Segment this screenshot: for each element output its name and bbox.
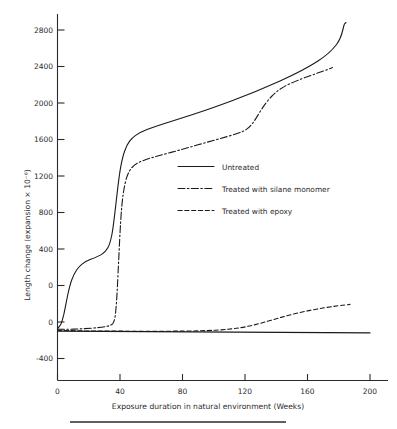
x-tick-label: 160 [300,387,315,396]
legend-label-epoxy: Treated with epoxy [221,207,293,216]
y-tick-label: -400 [36,354,53,363]
y-tick-label: 2800 [34,26,53,35]
y-tick-label: 400 [39,245,54,254]
y-tick-label: 0 [48,318,53,327]
legend-label-silane-monomer: Treated with silane monomer [221,185,331,194]
chart-figure: 2800 2400 2000 1600 1200 800 400 0 0 -40… [0,0,397,429]
y-axis-title: Length change (expansion × 10⁻⁶) [23,169,32,301]
x-axis-title: Exposure duration in natural environment… [112,402,304,411]
series-silane-monomer [58,68,333,330]
y-tick-label: 1200 [34,172,53,181]
x-tick-label: 200 [363,387,378,396]
series-untreated [58,23,347,329]
x-tick-label: 0 [55,387,60,396]
y-tick-labels: 2800 2400 2000 1600 1200 800 400 0 0 -40… [34,26,53,364]
x-tick-label: 40 [115,387,125,396]
y-tick-marks [58,30,65,359]
y-tick-label: 2400 [34,62,53,71]
x-tick-label: 120 [238,387,253,396]
series-baseline [58,331,371,333]
legend: Untreated Treated with silane monomer Tr… [178,163,331,216]
y-tick-label: 0 [48,281,53,290]
x-tick-marks [58,374,371,381]
y-tick-label: 800 [39,208,54,217]
line-chart-svg: 2800 2400 2000 1600 1200 800 400 0 0 -40… [0,0,397,429]
y-tick-label: 2000 [34,99,53,108]
y-tick-label: 1600 [34,135,53,144]
legend-label-untreated: Untreated [222,163,259,172]
x-tick-labels: 0 40 80 120 160 200 [55,387,377,396]
x-tick-label: 80 [178,387,188,396]
